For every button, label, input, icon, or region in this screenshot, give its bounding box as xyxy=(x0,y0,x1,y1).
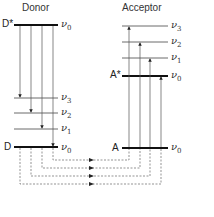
dashed-coupling-path xyxy=(42,148,140,168)
donor-level-label: ν0 xyxy=(61,19,72,33)
donor-ground-label: D xyxy=(4,142,11,152)
level-index: 0 xyxy=(67,147,71,155)
coupling-arrowheads xyxy=(89,158,94,186)
level-index: 3 xyxy=(67,97,71,105)
donor-levels xyxy=(14,25,58,147)
acceptor-level-label: ν3 xyxy=(171,20,182,34)
level-index: 0 xyxy=(177,75,181,83)
acceptor-level-label: ν1 xyxy=(171,52,182,66)
level-index: 3 xyxy=(177,25,181,33)
dashed-coupling-path xyxy=(31,148,150,176)
level-index: 2 xyxy=(177,41,181,49)
acceptor-level-label: ν0 xyxy=(171,70,182,84)
level-index: 1 xyxy=(67,128,71,136)
acceptor-title: Acceptor xyxy=(122,3,161,13)
arrow-right-icon xyxy=(89,166,94,170)
arrow-right-icon xyxy=(89,158,94,162)
acceptor-excited-label: A* xyxy=(110,70,121,80)
donor-level-label: ν3 xyxy=(61,92,72,106)
acceptor-absorption-arrows xyxy=(129,27,161,147)
acceptor-level-label: ν0 xyxy=(171,142,182,156)
coupling-paths xyxy=(20,148,161,184)
acceptor-ground-label: A xyxy=(112,143,119,153)
acceptor-level-label: ν2 xyxy=(171,36,182,50)
donor-emission-arrows xyxy=(20,26,53,146)
level-index: 0 xyxy=(177,147,181,155)
level-index: 1 xyxy=(177,57,181,65)
arrow-right-icon xyxy=(89,174,94,178)
donor-level-label: ν0 xyxy=(61,142,72,156)
donor-level-label: ν2 xyxy=(61,107,72,121)
energy-diagram-canvas xyxy=(0,0,214,217)
level-index: 2 xyxy=(67,112,71,120)
level-index: 0 xyxy=(67,24,71,32)
donor-level-label: ν1 xyxy=(61,123,72,137)
donor-title: Donor xyxy=(22,3,49,13)
arrow-right-icon xyxy=(89,182,94,186)
donor-excited-label: D* xyxy=(2,19,13,29)
